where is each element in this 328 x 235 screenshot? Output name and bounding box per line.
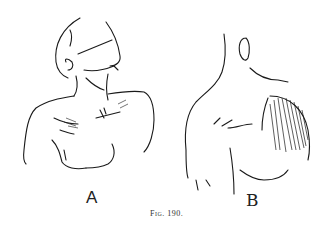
panel-label-a: A <box>86 188 97 208</box>
figure-190: A B Fig. 190. <box>0 0 328 235</box>
figure-caption: Fig. 190. <box>150 209 183 218</box>
illustration-line-art <box>0 0 328 235</box>
panel-label-b: B <box>246 190 259 210</box>
